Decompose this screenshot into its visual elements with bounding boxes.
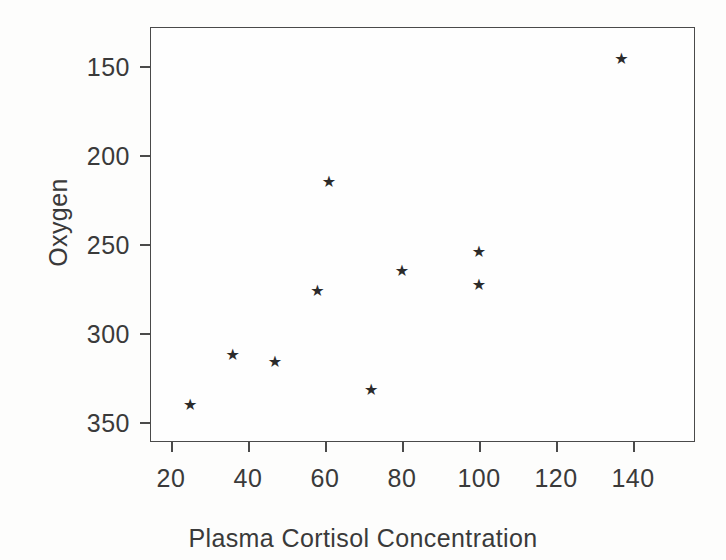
x-axis-tick [248,442,250,452]
plot-area-frame [150,27,695,442]
y-axis-tick-label: 350 [52,409,130,438]
x-axis-tick-label: 140 [593,464,673,493]
x-axis-tick [402,442,404,452]
y-axis-tick [140,66,150,68]
y-axis-tick-label: 300 [52,320,130,349]
x-axis-tick-label: 120 [516,464,596,493]
x-axis-title: Plasma Cortisol Concentration [0,524,726,553]
y-axis-tick-label: 150 [52,53,130,82]
x-axis-tick-label: 100 [439,464,519,493]
x-axis-tick-label: 80 [362,464,442,493]
y-axis-tick [140,244,150,246]
x-axis-tick [171,442,173,452]
x-axis-tick-label: 20 [131,464,211,493]
scatter-plot-figure: ★★★★★★★★★★ 350300250200150 2040608010012… [0,0,726,560]
x-axis-tick [556,442,558,452]
y-axis-title: Oxygen [44,123,73,323]
x-axis-tick-label: 60 [285,464,365,493]
y-axis-tick [140,155,150,157]
x-axis-tick [633,442,635,452]
x-axis-tick-label: 40 [208,464,288,493]
x-axis-tick [325,442,327,452]
y-axis-tick [140,333,150,335]
y-axis-tick [140,422,150,424]
x-axis-tick [479,442,481,452]
